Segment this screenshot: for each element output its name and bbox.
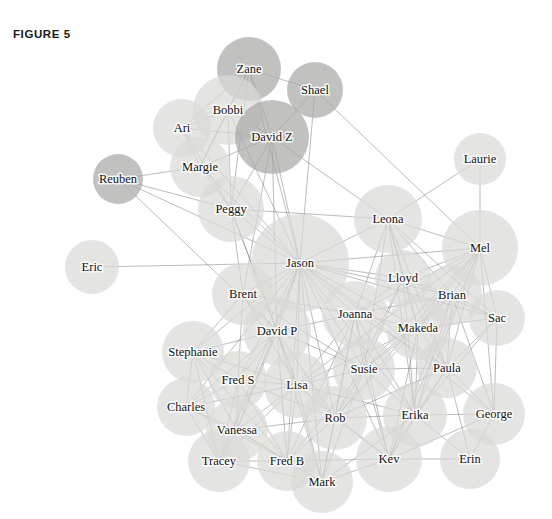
graph-node-label-tracey: Tracey <box>202 454 237 468</box>
graph-node-label-eric: Eric <box>82 260 103 274</box>
graph-node-label-mel: Mel <box>470 241 491 255</box>
graph-node-label-peggy: Peggy <box>215 202 247 216</box>
graph-node-label-mark: Mark <box>308 475 336 489</box>
graph-node-label-laurie: Laurie <box>464 152 497 166</box>
graph-node-label-lisa: Lisa <box>286 378 308 392</box>
graph-node-label-brent: Brent <box>229 287 257 301</box>
graph-node-label-charles: Charles <box>167 400 205 414</box>
graph-node-label-erika: Erika <box>401 408 429 422</box>
graph-node-label-davidz: David Z <box>251 130 292 144</box>
graph-node-label-fredb: Fred B <box>270 454 304 468</box>
graph-node-label-reuben: Reuben <box>99 172 138 186</box>
graph-node-label-margie: Margie <box>182 160 218 174</box>
graph-node-label-stephanie: Stephanie <box>168 345 218 359</box>
graph-node-label-susie: Susie <box>350 362 378 376</box>
node-layer <box>65 37 525 513</box>
graph-node-label-bobbi: Bobbi <box>213 103 244 117</box>
graph-node-label-zane: Zane <box>237 62 262 76</box>
graph-node-label-jason: Jason <box>286 256 315 270</box>
graph-node-label-george: George <box>476 407 513 421</box>
graph-node-label-leona: Leona <box>372 212 404 226</box>
graph-node-label-vanessa: Vanessa <box>217 423 258 437</box>
graph-node-label-freds: Fred S <box>222 373 255 387</box>
graph-node-label-rob: Rob <box>325 411 346 425</box>
graph-node-label-brian: Brian <box>438 288 467 302</box>
graph-node-label-paula: Paula <box>433 361 461 375</box>
graph-node-label-kev: Kev <box>379 452 401 466</box>
network-graph: ZaneShaelBobbiAriDavid ZMargieReubenLaur… <box>0 0 552 519</box>
graph-node-label-ari: Ari <box>174 121 191 135</box>
graph-node-label-shael: Shael <box>301 83 329 97</box>
figure-container: FIGURE 5 ZaneShaelBobbiAriDavid ZMargieR… <box>0 0 552 519</box>
graph-node-label-joanna: Joanna <box>338 307 373 321</box>
graph-node-label-makeda: Makeda <box>398 321 439 335</box>
graph-node-label-sac: Sac <box>488 311 507 325</box>
graph-node-label-erin: Erin <box>459 452 481 466</box>
graph-node-label-davidp: David P <box>257 324 298 338</box>
graph-node-label-lloyd: Lloyd <box>388 271 419 285</box>
